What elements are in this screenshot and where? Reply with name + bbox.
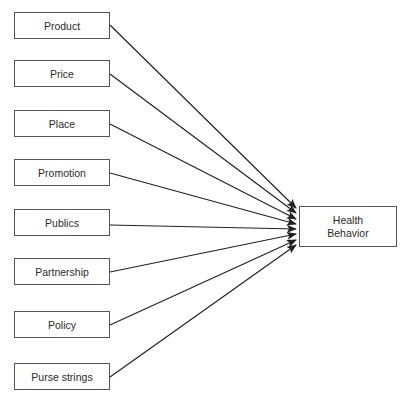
factor-label: Purse strings <box>31 371 92 383</box>
factor-label: Price <box>50 68 74 80</box>
factor-box-purse-strings: Purse strings <box>14 363 110 390</box>
factor-box-policy: Policy <box>14 311 110 338</box>
arrow-price <box>110 74 296 213</box>
factor-box-place: Place <box>14 110 110 137</box>
factor-box-publics: Publics <box>14 209 110 236</box>
outcome-box-health-behavior: Health Behavior <box>299 206 397 247</box>
arrow-place <box>110 124 296 219</box>
factor-label: Promotion <box>38 167 86 179</box>
factor-label: Product <box>44 20 80 32</box>
factor-label: Partnership <box>35 266 89 278</box>
outcome-label-line1: Health <box>327 214 368 227</box>
factor-box-promotion: Promotion <box>14 159 110 186</box>
factor-label: Publics <box>45 217 79 229</box>
factor-box-price: Price <box>14 60 110 87</box>
arrow-purse-strings <box>110 245 296 377</box>
factor-label: Place <box>49 118 75 130</box>
factor-label: Policy <box>48 319 76 331</box>
outcome-label-line2: Behavior <box>327 227 368 240</box>
factor-box-product: Product <box>14 12 110 39</box>
arrow-publics <box>110 225 296 229</box>
factor-box-partnership: Partnership <box>14 258 110 285</box>
